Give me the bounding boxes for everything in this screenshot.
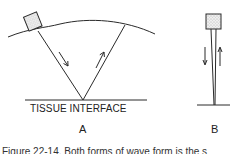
incident-beam [38, 31, 83, 100]
arrow-up-icon [96, 52, 104, 68]
panel-label-b: B [211, 123, 218, 135]
beam-right-edge [215, 29, 216, 105]
diagram-b [197, 14, 230, 105]
panel-label-a: A [79, 123, 86, 135]
arrow-down-icon [203, 47, 207, 65]
ultrasound-diagram [0, 0, 239, 154]
tissue-interface-label: TISSUE INTERFACE [30, 103, 127, 114]
beam-left-edge [211, 29, 214, 105]
figure-caption: Figure 22-14. Both forms of wave form is… [2, 146, 207, 154]
reflected-beam [83, 25, 125, 100]
diagram-a [8, 12, 155, 100]
arrow-up-icon [218, 47, 222, 66]
arrow-down-icon [59, 52, 68, 66]
transducer-probe-b [206, 14, 221, 29]
